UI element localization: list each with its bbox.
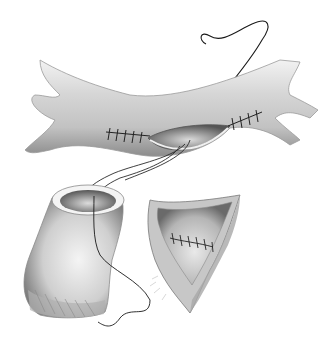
graft-cuff — [24, 185, 124, 318]
opened-vessel-segment — [148, 195, 240, 313]
illustration-canvas — [0, 0, 327, 341]
main-vessel — [25, 60, 318, 156]
anastomosis-illustration — [0, 0, 327, 341]
